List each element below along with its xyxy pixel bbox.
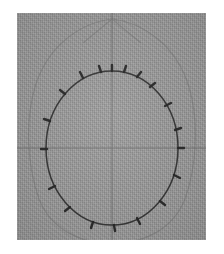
boundary-marker bbox=[99, 66, 101, 72]
boundary-marker bbox=[91, 222, 93, 228]
boundary-marker bbox=[65, 207, 70, 211]
boundary-marker bbox=[114, 225, 115, 231]
axes-group bbox=[17, 13, 206, 240]
chart-panel bbox=[17, 13, 206, 240]
outer-contour-group bbox=[29, 19, 196, 240]
boundary-marker bbox=[150, 83, 155, 87]
boundary-marker bbox=[60, 90, 65, 94]
chart-plot bbox=[17, 13, 206, 240]
boundary-marker bbox=[137, 218, 140, 224]
panel-vignette bbox=[17, 13, 206, 240]
boundary-marker bbox=[124, 66, 126, 72]
inner-contour-path bbox=[46, 71, 178, 225]
figure-container bbox=[0, 0, 224, 254]
boundary-marker bbox=[49, 186, 55, 189]
outer-contour-path bbox=[29, 19, 196, 240]
inner-contour-group bbox=[46, 71, 178, 225]
boundary-marker bbox=[175, 128, 181, 130]
boundary-marker bbox=[80, 72, 83, 78]
scan-noise-texture bbox=[17, 13, 206, 240]
boundary-markers-group bbox=[41, 65, 184, 231]
boundary-marker bbox=[44, 119, 50, 121]
boundary-marker bbox=[174, 175, 180, 178]
boundary-marker bbox=[165, 103, 171, 106]
outer-contour-apex-lines bbox=[83, 19, 141, 43]
boundary-marker bbox=[160, 201, 165, 205]
boundary-marker bbox=[137, 72, 141, 77]
